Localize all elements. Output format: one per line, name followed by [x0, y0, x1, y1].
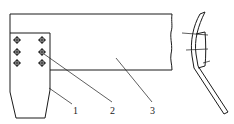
bolt-icon	[38, 36, 46, 44]
bolt-group	[13, 36, 46, 67]
part-label-2: 2	[110, 105, 115, 116]
part-label-1: 1	[73, 105, 78, 116]
side-view	[182, 12, 228, 114]
break-line	[171, 14, 172, 70]
part-label-3: 3	[150, 105, 155, 116]
leader-line-2	[44, 54, 112, 102]
bolt-icon	[38, 59, 46, 67]
plate	[10, 33, 50, 118]
beam	[10, 14, 172, 70]
diagram-canvas: 1 2 3	[0, 0, 234, 124]
bolt-icon	[13, 36, 21, 44]
leader-line-1	[49, 88, 72, 104]
leader-line-3	[116, 58, 152, 102]
bolt-icon	[13, 59, 21, 67]
bolt-icon	[13, 48, 21, 56]
